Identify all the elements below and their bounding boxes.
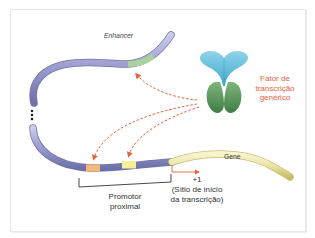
start-site-label-line1: +1 [164, 175, 230, 185]
enhancer-label: Enhancer [104, 31, 133, 40]
promoter-label-line1: Promotor [100, 192, 150, 202]
upper-dna-strand [33, 35, 171, 103]
tf-label-line2: transcrição [250, 84, 300, 94]
transcription-factor-label: Fator de transcrição genérico [250, 74, 300, 103]
promoter-element-yellow [122, 161, 136, 169]
arrow-to-orange-promoter [94, 104, 197, 158]
start-site-arrow [172, 165, 200, 175]
interaction-arrows [94, 75, 199, 158]
tf-label-line3: genérico [250, 93, 300, 103]
promoter-label-line2: proximal [100, 202, 150, 212]
start-site-label-line3: da transcrição) [164, 195, 230, 205]
promoter-label: Promotor proximal [100, 192, 150, 211]
promoter-bracket [79, 174, 171, 187]
start-site-label-line2: (Sítio de início [164, 185, 230, 195]
arrow-to-yellow-promoter [129, 107, 199, 155]
transcription-factor-icon [200, 51, 248, 113]
lower-dna-strand [33, 128, 172, 172]
gene-label: Gene [224, 152, 241, 161]
promoter-element-orange [86, 165, 100, 172]
arrow-to-enhancer [137, 75, 197, 100]
continuation-dots [31, 110, 34, 121]
tf-label-line1: Fator de [250, 74, 300, 84]
start-site-label: +1 (Sítio de início da transcrição) [164, 175, 230, 205]
gene-regulation-diagram [0, 0, 315, 238]
